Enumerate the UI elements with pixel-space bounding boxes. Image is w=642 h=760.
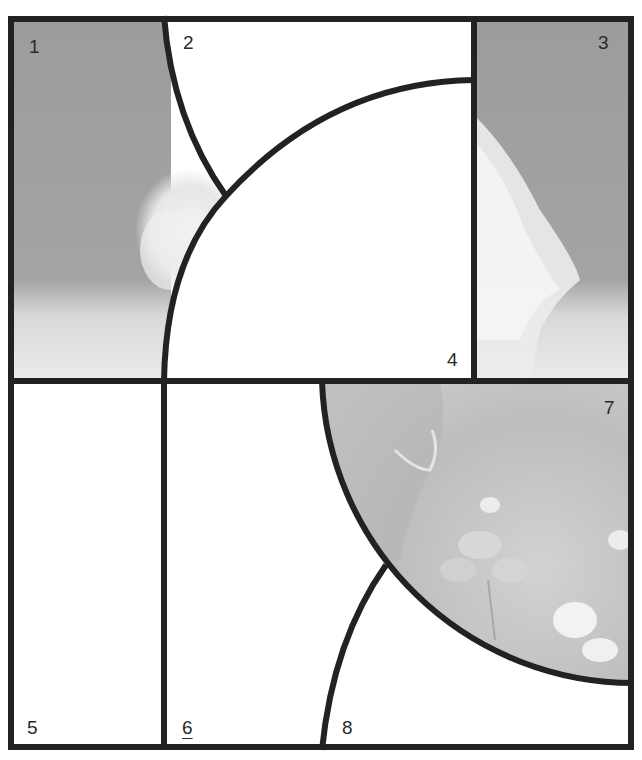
puzzle-diagram: 1 2 3 4 5 6 7 8: [0, 0, 642, 760]
arc-piece-4: [164, 80, 474, 381]
piece-label-6: 6: [182, 718, 193, 737]
arc-piece-8: [322, 565, 386, 750]
piece-label-3: 3: [598, 33, 609, 52]
piece-label-8: 8: [342, 718, 353, 737]
piece-1-photo: [11, 19, 245, 381]
piece-label-5: 5: [27, 718, 38, 737]
piece-label-7: 7: [604, 398, 615, 417]
piece-label-2: 2: [183, 33, 194, 52]
piece-label-4: 4: [447, 350, 458, 369]
puzzle-frame-svg: [0, 0, 642, 760]
piece-label-1: 1: [29, 37, 40, 56]
piece-3-photo: [474, 19, 631, 381]
